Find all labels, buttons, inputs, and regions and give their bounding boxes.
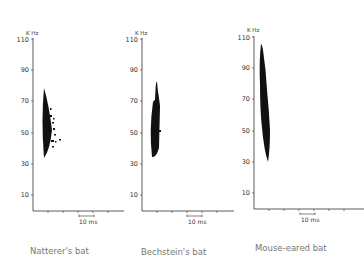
y-tick: 90 <box>13 66 29 74</box>
panel-bechsteins-bat: K Hz 110 90 70 50 30 10 10 ms Bechstein'… <box>110 0 240 267</box>
spectrogram-mouse-eared <box>230 0 364 230</box>
caption-natterers-bat: Natterer's bat <box>30 246 89 256</box>
y-tick: 50 <box>234 127 250 135</box>
y-tick: 70 <box>13 97 29 105</box>
y-tick: 10 <box>13 191 29 199</box>
y-tick: 30 <box>122 160 138 168</box>
y-tick: 50 <box>13 129 29 137</box>
caption-mouse-eared-bat: Mouse-eared bat <box>255 243 327 253</box>
y-tick: 10 <box>234 189 250 197</box>
panel-natterers-bat: K Hz 110 90 70 50 30 10 10 ms Natterer's… <box>0 0 120 267</box>
y-tick: 30 <box>234 158 250 166</box>
y-tick: 50 <box>122 129 138 137</box>
y-tick: 110 <box>122 36 138 44</box>
time-scale-label: 10 ms <box>301 216 320 223</box>
y-tick: 110 <box>234 34 250 42</box>
y-tick: 10 <box>122 191 138 199</box>
y-tick: 30 <box>13 160 29 168</box>
y-tick: 110 <box>13 36 29 44</box>
time-scale-label: 10 ms <box>188 218 207 225</box>
panel-mouse-eared-bat: K Hz 110 90 70 50 30 10 10 ms Mouse-eare… <box>230 0 364 267</box>
y-axis-unit: K Hz <box>247 27 259 33</box>
time-scale-label: 10 ms <box>79 218 98 225</box>
y-tick: 70 <box>122 97 138 105</box>
caption-bechsteins-bat: Bechstein's bat <box>141 247 206 257</box>
y-tick: 90 <box>234 64 250 72</box>
y-tick: 90 <box>122 66 138 74</box>
y-tick: 70 <box>234 95 250 103</box>
